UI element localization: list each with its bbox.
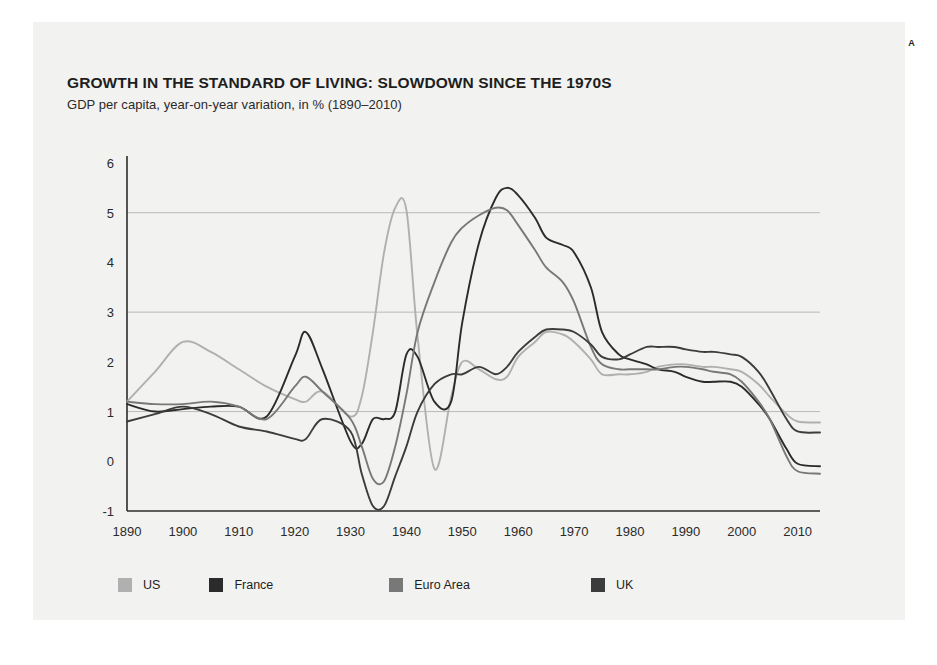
y-tick-label: 5: [107, 206, 114, 221]
series-line-france: [127, 188, 820, 466]
chart-page: A GROWTH IN THE STANDARD OF LIVING: SLOW…: [0, 0, 937, 665]
legend-label: UK: [616, 578, 633, 592]
x-tick-label: 1940: [392, 524, 421, 539]
x-tick-label: 1980: [616, 524, 645, 539]
x-axis-ticks: 1890190019101920193019401950196019701980…: [113, 524, 813, 539]
legend-label: France: [234, 578, 273, 592]
x-tick-label: 1990: [671, 524, 700, 539]
x-tick-label: 1890: [113, 524, 142, 539]
legend-item-euro-area[interactable]: Euro Area: [389, 578, 470, 592]
legend-swatch-icon: [209, 578, 223, 592]
data-series-group: [127, 188, 820, 510]
legend-swatch-icon: [591, 578, 605, 592]
legend-swatch-icon: [389, 578, 403, 592]
x-tick-label: 2000: [727, 524, 756, 539]
series-line-us: [127, 198, 820, 470]
x-tick-label: 1900: [168, 524, 197, 539]
x-tick-label: 1950: [448, 524, 477, 539]
x-tick-label: 1960: [504, 524, 533, 539]
chart-legend: USFranceEuro AreaUK: [118, 578, 633, 592]
legend-item-france[interactable]: France: [209, 578, 273, 592]
x-tick-label: 2010: [783, 524, 812, 539]
series-line-euro-area: [127, 207, 820, 484]
legend-item-us[interactable]: US: [118, 578, 160, 592]
legend-item-uk[interactable]: UK: [591, 578, 633, 592]
plot-area: 6543210-1 189019001910192019301940195019…: [0, 0, 937, 665]
x-tick-label: 1910: [224, 524, 253, 539]
y-tick-label: 3: [107, 305, 114, 320]
y-tick-label: 4: [107, 255, 114, 270]
axis-lines: [127, 156, 820, 511]
y-tick-label: 0: [107, 454, 114, 469]
y-tick-label: 6: [107, 156, 114, 171]
chart-svg: 6543210-1 189019001910192019301940195019…: [0, 0, 937, 665]
legend-label: US: [143, 578, 160, 592]
series-line-uk: [127, 329, 820, 510]
y-axis-ticks: 6543210-1: [102, 156, 114, 519]
y-tick-label: -1: [102, 504, 114, 519]
x-tick-label: 1920: [280, 524, 309, 539]
y-tick-label: 2: [107, 355, 114, 370]
x-tick-label: 1930: [336, 524, 365, 539]
x-tick-label: 1970: [560, 524, 589, 539]
legend-swatch-icon: [118, 578, 132, 592]
legend-label: Euro Area: [414, 578, 470, 592]
y-tick-label: 1: [107, 405, 114, 420]
